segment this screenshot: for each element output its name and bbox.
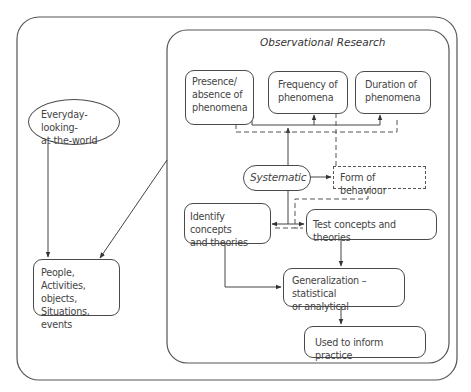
frequency-line1: Frequency of [278, 78, 338, 91]
people-line3: Situations, events [41, 305, 112, 331]
node-generalization: Generalization – statistical or analytic… [283, 268, 405, 307]
node-frequency: Frequency of phenomena [268, 71, 348, 114]
node-systematic: Systematic [243, 165, 311, 191]
presence-line2: absence of [192, 88, 247, 101]
everyday-line2: at-the-world [41, 134, 119, 147]
people-line2: Activities, objects, [41, 279, 112, 305]
node-test-concepts: Test concepts and theories [306, 209, 437, 240]
node-people: People, Activities, objects, Situations,… [33, 259, 120, 316]
node-everyday-looking: Everyday-looking- at-the-world [28, 99, 120, 145]
presence-line3: phenomena [192, 101, 247, 114]
duration-line1: Duration of [365, 78, 421, 91]
node-form-of-behaviour: Form of behaviour [333, 166, 426, 189]
identify-line2: and theories [190, 236, 265, 249]
diagram-title: Observational Research [260, 36, 386, 48]
node-duration: Duration of phenomena [355, 71, 431, 114]
identify-line1: Identify concepts [190, 210, 265, 236]
people-line1: People, [41, 266, 112, 279]
everyday-line1: Everyday-looking- [41, 108, 119, 134]
generalization-line2: or analytical [292, 300, 396, 313]
duration-line2: phenomena [365, 91, 421, 104]
generalization-line1: Generalization – statistical [292, 274, 396, 300]
presence-line1: Presence/ [192, 75, 247, 88]
node-used-to-inform-practice: Used to inform practice [304, 326, 426, 358]
frequency-line2: phenomena [278, 91, 338, 104]
node-presence-absence: Presence/ absence of phenomena [185, 70, 254, 125]
node-identify-concepts: Identify concepts and theories [184, 203, 271, 244]
